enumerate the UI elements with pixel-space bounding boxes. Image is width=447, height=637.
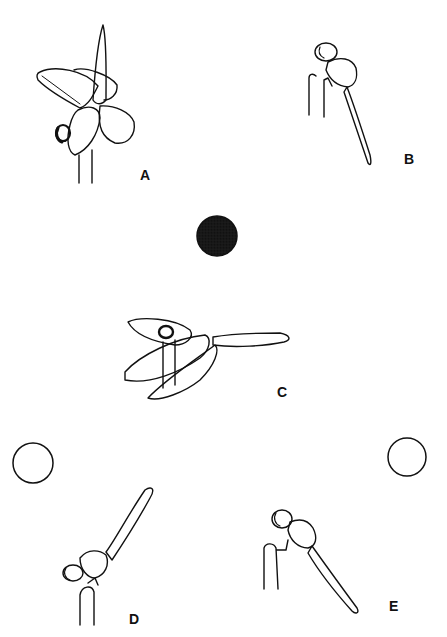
- dragonfly-c: [125, 319, 289, 399]
- stippled-sun: [197, 216, 237, 256]
- sun-right: [388, 438, 426, 476]
- panel-label-c: C: [277, 384, 287, 400]
- panel-label-e: E: [389, 598, 398, 614]
- panel-label-a: A: [140, 167, 150, 183]
- dragonfly-a: [37, 25, 134, 183]
- dragonfly-e: [264, 510, 358, 613]
- sun-left: [13, 443, 53, 483]
- panel-label-b: B: [404, 151, 414, 167]
- dragonfly-d: [63, 488, 153, 625]
- panel-label-d: D: [129, 611, 139, 627]
- dragonfly-posture-figure: A B C D E: [0, 0, 447, 637]
- dragonfly-b: [309, 43, 371, 164]
